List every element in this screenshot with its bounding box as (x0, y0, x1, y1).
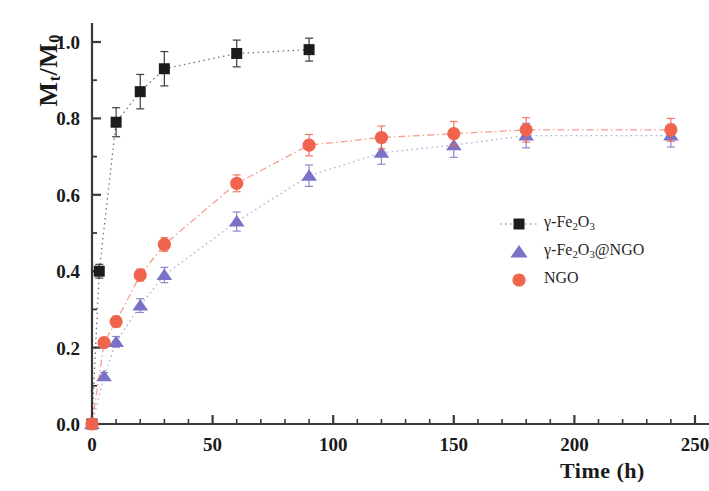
data-point-circle (375, 131, 388, 144)
x-axis-title: Time (h) (560, 458, 645, 484)
data-point-circle (520, 123, 533, 136)
y-tick-label: 0.6 (56, 185, 80, 206)
legend-marker-square (496, 212, 542, 236)
legend-entry-1[interactable]: γ-Fe2O3 (496, 212, 708, 236)
chart-figure: 0.00.20.40.60.81.0050100150200250 Mt/M0 … (0, 0, 709, 491)
legend-marker-triangle (496, 240, 542, 264)
legend-label: γ-Fe2O3 (544, 213, 595, 232)
data-point-circle (664, 123, 677, 136)
data-point-circle (302, 139, 315, 152)
x-tick-label: 250 (681, 434, 709, 455)
y-axis-title: Mt/M0 (34, 5, 65, 135)
data-point-circle (158, 238, 171, 251)
data-point-circle (447, 127, 460, 140)
series-1 (87, 38, 315, 429)
data-point-triangle (229, 215, 245, 226)
data-point-circle (134, 268, 147, 281)
data-point-square (135, 86, 146, 97)
data-point-circle (110, 315, 123, 328)
x-tick-label: 0 (87, 434, 97, 455)
y-tick-label: 0.0 (56, 414, 80, 435)
x-tick-label: 100 (319, 434, 348, 455)
legend-label: NGO (544, 269, 579, 287)
data-point-triangle (108, 335, 124, 346)
data-point-square (231, 48, 242, 59)
data-point-square (111, 117, 122, 128)
data-point-circle (230, 177, 243, 190)
data-point-square (159, 63, 170, 74)
data-point-circle (97, 336, 110, 349)
legend-entry-3[interactable]: NGO (496, 268, 708, 292)
x-tick-label: 150 (440, 434, 469, 455)
y-tick-label: 0.4 (56, 261, 80, 282)
legend-label: γ-Fe2O3@NGO (544, 241, 644, 260)
data-point-square (94, 266, 105, 277)
data-point-circle (85, 417, 98, 430)
y-tick-label: 0.2 (56, 338, 80, 359)
legend-marker-circle (496, 268, 542, 292)
data-point-triangle (132, 299, 148, 310)
x-tick-label: 50 (203, 434, 222, 455)
y-axis-title-text: Mt/M0 (34, 34, 63, 106)
data-point-triangle (301, 169, 317, 180)
legend-entry-2[interactable]: γ-Fe2O3@NGO (496, 240, 708, 264)
data-point-square (304, 44, 315, 55)
chart-legend: γ-Fe2O3γ-Fe2O3@NGONGO (496, 212, 708, 292)
x-tick-label: 200 (560, 434, 589, 455)
